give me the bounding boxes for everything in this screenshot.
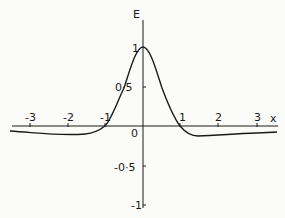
x-tick-label: 2: [215, 111, 222, 124]
x-tick-label: -1: [100, 111, 111, 124]
x-axis-label: x: [270, 112, 277, 125]
x-tick-label: 3: [254, 111, 261, 124]
y-tick-label: -0·5: [114, 161, 135, 174]
x-tick-label: -2: [63, 111, 74, 124]
y-tick-label: -1: [131, 199, 142, 212]
y-tick-label: 1: [132, 42, 139, 55]
x-tick-label: -3: [25, 111, 36, 124]
chart: -3 -2 -1 1 2 3 x E 1 0·5 0 -0·5 -1: [0, 0, 285, 218]
x-tick-label: 1: [179, 111, 186, 124]
y-axis-label: E: [133, 8, 140, 21]
y-tick-label: 0: [131, 127, 138, 140]
